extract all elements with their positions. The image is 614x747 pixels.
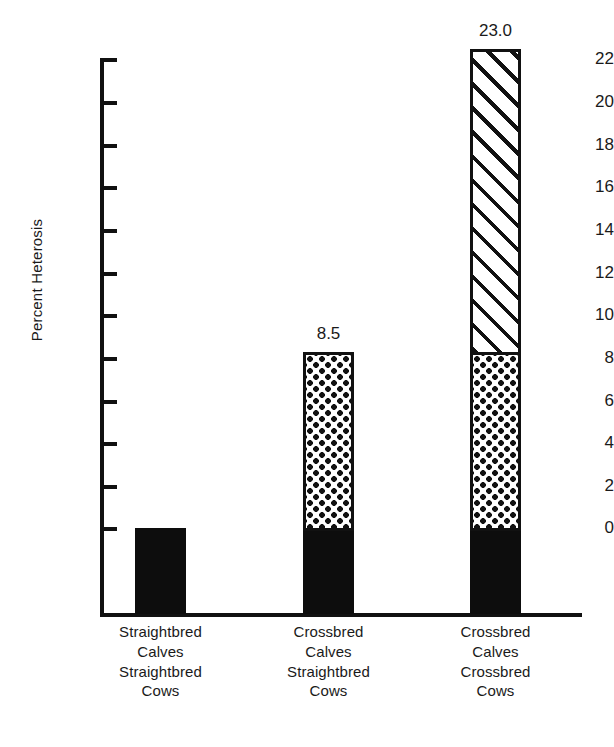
x-category-label-3: Crossbred Calves Crossbred Cows xyxy=(425,622,566,701)
y-tick-label-6: 6 xyxy=(518,392,614,409)
y-tick-label-16: 16 xyxy=(518,178,614,195)
bar-2-base-segment xyxy=(303,528,354,614)
y-tick-0 xyxy=(104,527,117,531)
x-category-label-2-line-3: Straightbred xyxy=(258,662,399,682)
x-category-label-2: Crossbred Calves Straightbred Cows xyxy=(258,622,399,701)
bar-3-dotted-segment xyxy=(470,352,521,531)
bar-1-base-segment xyxy=(135,528,186,614)
x-category-label-1-line-4: Cows xyxy=(90,681,231,701)
bar-2-dotted-segment xyxy=(303,352,354,531)
y-tick-label-22: 22 xyxy=(518,50,614,67)
bar-3-value-label: 23.0 xyxy=(455,22,536,39)
y-tick-14 xyxy=(104,229,117,233)
y-tick-label-0: 0 xyxy=(518,519,614,536)
y-tick-label-18: 18 xyxy=(518,136,614,153)
x-category-label-1-line-3: Straightbred xyxy=(90,662,231,682)
y-tick-6 xyxy=(104,400,117,404)
bar-2-value-label: 8.5 xyxy=(288,325,369,342)
y-tick-16 xyxy=(104,186,117,190)
y-tick-label-14: 14 xyxy=(518,221,614,238)
y-tick-2 xyxy=(104,485,117,489)
y-tick-10 xyxy=(104,314,117,318)
y-tick-4 xyxy=(104,442,117,446)
x-category-label-3-line-4: Cows xyxy=(425,681,566,701)
y-tick-22 xyxy=(104,58,117,62)
y-axis-label: Percent Heterosis xyxy=(22,185,52,375)
x-category-label-1-line-1: Straightbred xyxy=(90,622,231,642)
y-tick-label-8: 8 xyxy=(518,349,614,366)
x-category-label-2-line-4: Cows xyxy=(258,681,399,701)
y-tick-20 xyxy=(104,101,117,105)
x-category-label-2-line-2: Calves xyxy=(258,642,399,662)
x-category-label-1-line-2: Calves xyxy=(90,642,231,662)
y-tick-label-20: 20 xyxy=(518,93,614,110)
y-tick-18 xyxy=(104,144,117,148)
y-tick-12 xyxy=(104,272,117,276)
chart-figure: Percent Heterosis 22 20 18 16 14 12 10 8… xyxy=(0,0,614,747)
y-tick-label-2: 2 xyxy=(518,477,614,494)
x-category-label-3-line-3: Crossbred xyxy=(425,662,566,682)
bar-3-base-segment xyxy=(470,528,521,614)
y-tick-8 xyxy=(104,357,117,361)
x-category-label-3-line-2: Calves xyxy=(425,642,566,662)
x-category-label-2-line-1: Crossbred xyxy=(258,622,399,642)
x-category-label-1: Straightbred Calves Straightbred Cows xyxy=(90,622,231,701)
y-tick-label-4: 4 xyxy=(518,434,614,451)
y-tick-label-10: 10 xyxy=(518,306,614,323)
y-axis-line xyxy=(100,58,104,617)
y-tick-label-12: 12 xyxy=(518,264,614,281)
x-category-label-3-line-1: Crossbred xyxy=(425,622,566,642)
bar-3-hatched-segment xyxy=(470,49,521,355)
